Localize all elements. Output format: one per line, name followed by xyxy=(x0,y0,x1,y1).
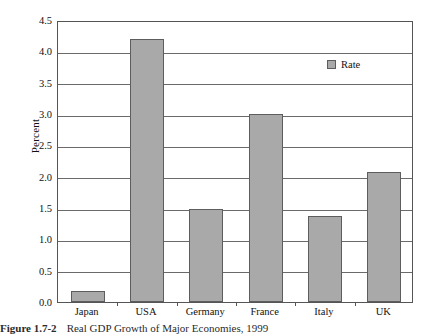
y-axis-tick-label: 2.5 xyxy=(18,141,52,151)
y-axis-tick-label: 1.0 xyxy=(18,235,52,245)
chart-legend: Rate xyxy=(327,59,360,70)
y-axis-tick-label: 3.5 xyxy=(18,79,52,89)
y-axis-tick-label: 1.5 xyxy=(18,204,52,214)
y-axis-tick-label: 0.0 xyxy=(18,298,52,308)
y-axis-tick-label: 4.5 xyxy=(18,16,52,26)
x-axis-tick-label: UK xyxy=(354,306,413,317)
x-axis-tick-label: Italy xyxy=(294,306,353,317)
y-axis-tick-label: 2.0 xyxy=(18,173,52,183)
figure-caption-text: Real GDP Growth of Major Economies, 1999 xyxy=(67,322,269,334)
figure-caption: Figure 1.7-2Real GDP Growth of Major Eco… xyxy=(0,322,427,334)
figure-caption-label: Figure 1.7-2 xyxy=(0,322,57,334)
y-axis-tick-label: 0.5 xyxy=(18,267,52,277)
x-axis-tick-label: USA xyxy=(116,306,175,317)
x-axis-tick-label: France xyxy=(235,306,294,317)
legend-swatch-rate-icon xyxy=(327,60,336,69)
x-axis-tick-label: Germany xyxy=(176,306,235,317)
legend-label-rate: Rate xyxy=(341,59,360,70)
y-axis-tick-label: 4.0 xyxy=(18,47,52,57)
y-axis-tick-label: 3.0 xyxy=(18,110,52,120)
x-axis-tick-label: Japan xyxy=(57,306,116,317)
